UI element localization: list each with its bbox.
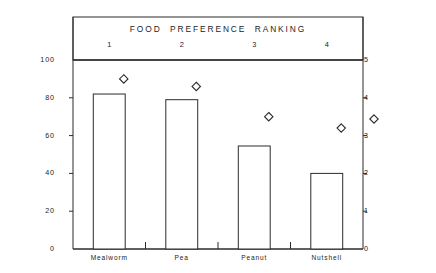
page-title: FOOD PREFERENCE RANKING — [0, 25, 436, 33]
diamond-marker-group — [120, 75, 346, 133]
left-tick-label-0: 0 — [21, 245, 55, 252]
left-tick-label-80: 80 — [21, 94, 55, 101]
right-tick-label-3: 3 — [364, 132, 390, 139]
rank-label-1: 1 — [89, 41, 129, 48]
diamond-marker-peanut — [265, 113, 273, 121]
bar-group — [93, 94, 342, 249]
diamond-marker-pea — [192, 82, 200, 90]
diamond-marker-mealworm — [120, 75, 128, 83]
rank-label-4: 4 — [307, 41, 347, 48]
category-label-pea: Pea — [140, 255, 224, 262]
right-tick-label-2: 2 — [364, 169, 390, 176]
left-tick-label-20: 20 — [21, 207, 55, 214]
left-tick-label-100: 100 — [21, 56, 55, 63]
right-axis-ticks — [363, 98, 367, 211]
category-label-mealworm: Mealworm — [67, 255, 151, 262]
x-axis-ticks — [109, 242, 327, 249]
right-tick-label-0: 0 — [364, 245, 390, 252]
left-tick-label-60: 60 — [21, 132, 55, 139]
left-tick-label-40: 40 — [21, 169, 55, 176]
left-axis-ticks — [69, 98, 73, 211]
legend-diamond-glyph — [370, 115, 378, 123]
right-tick-label-1: 1 — [364, 207, 390, 214]
rank-label-3: 3 — [234, 41, 274, 48]
category-label-nutshell: Nutshell — [285, 255, 369, 262]
right-tick-label-5: 5 — [364, 56, 390, 63]
diamond-marker-nutshell — [337, 124, 345, 132]
legend-diamond-icon — [370, 115, 378, 123]
bar-peanut — [238, 146, 270, 249]
bar-nutshell — [311, 173, 343, 249]
rank-label-2: 2 — [162, 41, 202, 48]
chart-figure: FOOD PREFERENCE RANKING 1 2 3 4 100 80 6… — [0, 0, 436, 273]
bar-pea — [166, 100, 198, 249]
category-label-peanut: Peanut — [212, 255, 296, 262]
bar-mealworm — [93, 94, 125, 249]
right-tick-label-4: 4 — [364, 94, 390, 101]
